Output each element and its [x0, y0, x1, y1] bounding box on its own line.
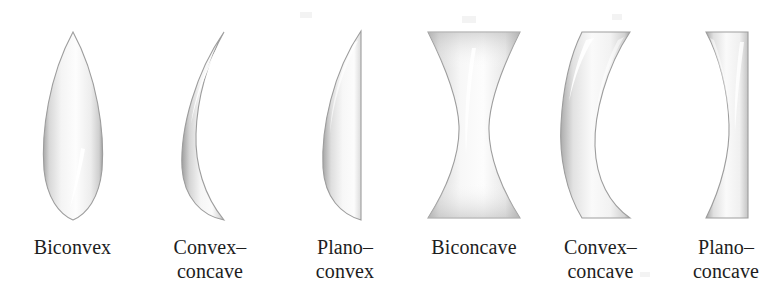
lens-label-plano-concave: Plano– concave [668, 236, 784, 283]
lens-label-convex-concave-diverging: Convex– concave [533, 236, 668, 283]
lens-item-plano-convex: Plano– convex [275, 0, 415, 291]
lens-figure-page: Biconvex [0, 0, 784, 291]
lens-label-plano-convex: Plano– convex [275, 236, 415, 283]
plano-concave-lens-drawing [668, 28, 784, 233]
lens-label-biconvex: Biconvex [0, 236, 145, 260]
lens-item-biconcave: Biconcave [415, 0, 533, 291]
lens-item-biconvex: Biconvex [0, 0, 145, 291]
biconcave-lens-drawing [415, 28, 533, 233]
lens-item-convex-concave-diverging: Convex– concave [533, 0, 668, 291]
convex-concave-converging-lens-drawing [145, 28, 275, 233]
convex-concave-diverging-lens-drawing [533, 28, 668, 233]
plano-convex-lens-drawing [275, 28, 415, 233]
biconvex-lens-drawing [0, 28, 145, 233]
lens-item-convex-concave-converging: Convex– concave [145, 0, 275, 291]
lens-figure-row: Biconvex [0, 0, 784, 291]
lens-item-plano-concave: Plano– concave [668, 0, 784, 291]
lens-label-biconcave: Biconcave [415, 236, 533, 260]
lens-label-convex-concave-converging: Convex– concave [145, 236, 275, 283]
